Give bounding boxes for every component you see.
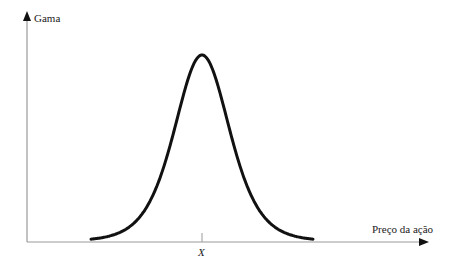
x-axis-arrow-icon <box>419 238 429 246</box>
x-axis-label: Preço da ação <box>372 223 434 235</box>
y-axis-arrow-icon <box>23 11 31 21</box>
gamma-diagram: Gama Preço da ação X <box>0 0 451 273</box>
strike-label: X <box>197 246 206 258</box>
y-axis-label: Gama <box>34 12 60 24</box>
gamma-curve <box>91 55 313 239</box>
